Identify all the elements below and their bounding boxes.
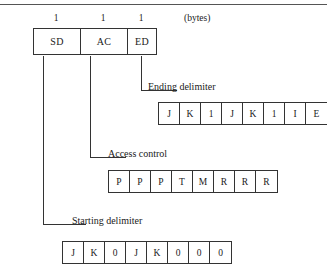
bit-cell: K <box>180 103 201 124</box>
ending-delimiter-bit-row: JK1JK1IE <box>158 102 327 125</box>
bit-cell: M <box>193 171 214 192</box>
diagram-canvas: 1 1 1 (bytes) SD AC ED Ending delimiter … <box>0 0 327 279</box>
byte-count-ed: 1 <box>134 13 148 24</box>
byte-count-ac: 1 <box>96 13 110 24</box>
units-label: (bytes) <box>184 13 210 24</box>
bit-cell: P <box>130 171 151 192</box>
bit-cell: R <box>235 171 256 192</box>
frame-field-ac: AC <box>81 29 128 54</box>
frame-field-ed: ED <box>128 29 156 54</box>
bit-cell: P <box>109 171 130 192</box>
bit-cell: T <box>172 171 193 192</box>
callout-starting-delimiter: Starting delimiter <box>72 215 142 227</box>
bit-cell: J <box>222 103 243 124</box>
starting-delimiter-bit-row: JK0JK000 <box>62 241 232 264</box>
leader-starting-delimiter <box>44 56 86 225</box>
callout-ending-delimiter: Ending delimiter <box>148 81 216 93</box>
byte-count-sd: 1 <box>49 13 63 24</box>
token-frame: SD AC ED <box>33 28 157 55</box>
callout-access-control: Access control <box>108 148 167 160</box>
bit-cell: 0 <box>210 242 231 263</box>
bit-cell: J <box>63 242 84 263</box>
bit-cell: 1 <box>201 103 222 124</box>
bit-cell: I <box>285 103 306 124</box>
bit-cell: R <box>256 171 277 192</box>
bit-cell: 1 <box>264 103 285 124</box>
bit-cell: 0 <box>105 242 126 263</box>
bit-cell: R <box>214 171 235 192</box>
access-control-bit-row: PPPTMRRR <box>108 170 278 193</box>
bit-cell: J <box>159 103 180 124</box>
bit-cell: K <box>147 242 168 263</box>
bit-cell: E <box>306 103 327 124</box>
bit-cell: K <box>84 242 105 263</box>
bit-cell: 0 <box>168 242 189 263</box>
bit-cell: K <box>243 103 264 124</box>
bit-cell: J <box>126 242 147 263</box>
bit-cell: 0 <box>189 242 210 263</box>
bit-cell: P <box>151 171 172 192</box>
frame-field-sd: SD <box>34 29 81 54</box>
leader-access-control <box>91 56 126 158</box>
